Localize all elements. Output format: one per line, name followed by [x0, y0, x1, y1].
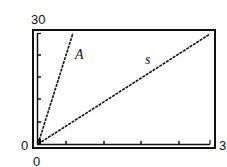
y-min-label: 0	[21, 139, 28, 152]
x-min-label: 0	[33, 155, 40, 167]
series-a-label: A	[75, 48, 84, 62]
series-s-line	[38, 34, 210, 144]
y-max-label: 30	[31, 13, 45, 26]
series-s-label: s	[145, 53, 150, 67]
origin-marker	[37, 139, 41, 145]
x-max-label: 3	[219, 139, 226, 152]
series-a-line	[38, 33, 73, 144]
